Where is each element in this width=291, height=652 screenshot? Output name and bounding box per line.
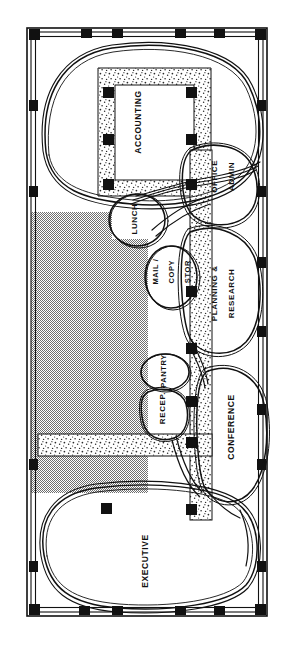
floor-plan-canvas <box>0 0 291 652</box>
stippled-corridor-spine-vertical <box>190 150 212 520</box>
stippled-corridor-spine-horizontal <box>38 434 212 456</box>
floor-plan-diagram: ACCOUNTING OFFICE ADMIN PLANNING & RESEA… <box>0 0 291 652</box>
bubble-pantry <box>141 354 191 392</box>
